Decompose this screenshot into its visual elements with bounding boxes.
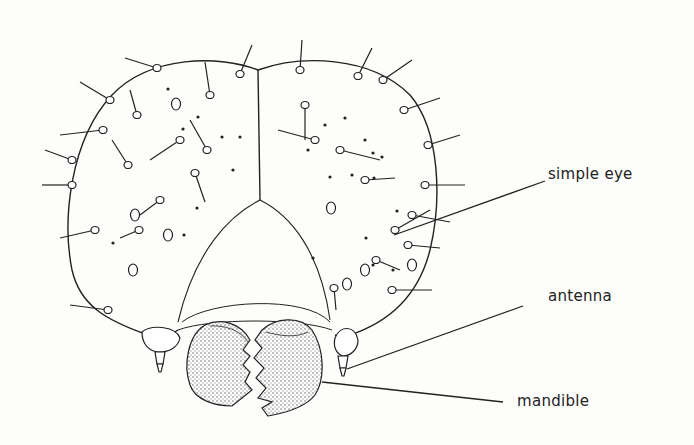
seta-line [383,60,412,80]
seta-socket [106,97,114,104]
head-outline [68,61,437,337]
seta-socket [124,162,132,169]
seta-line [70,305,108,310]
head-capsule-drawing [0,0,694,445]
seta-line [80,82,110,100]
seta-socket [354,73,362,80]
surface-dot [380,155,383,158]
surface-dot [350,173,353,176]
label-mandible: mandible [517,392,589,410]
leader-antenna [347,306,523,369]
seta-socket [311,137,319,144]
diagram-figure: simple eye antenna mandible [0,0,694,445]
surface-dot [323,123,326,126]
seta-socket [372,257,380,264]
seta-socket [421,182,429,189]
surface-dot [391,268,394,271]
surface-dot [343,116,346,119]
surface-dot [231,168,234,171]
seta-line [404,98,440,110]
surface-dot [181,127,184,130]
surface-dot [182,233,185,236]
surface-dot [364,236,367,239]
label-antenna: antenna [548,287,612,305]
seta-socket [388,287,396,294]
surface-dot [195,206,198,209]
surface-dot [328,175,331,178]
surface-dot [372,176,375,179]
seta-line [278,130,315,140]
setae [42,40,465,314]
surface-dot [395,209,398,212]
seta-socket [379,77,387,84]
surface-dot [196,115,199,118]
antenna-right [334,328,358,376]
eye-pit [131,209,140,221]
seta-socket [176,137,184,144]
seta-line [150,140,180,160]
seta-line [340,150,380,160]
label-simple-eye: simple eye [548,165,633,183]
seta-socket [191,170,199,177]
eye-pit [408,259,417,271]
seta-socket [301,102,309,109]
surface-dot [111,241,114,244]
leader-mandible [322,382,503,402]
seta-socket [99,127,107,134]
surface-dot [311,256,314,259]
seta-socket [330,285,338,292]
seta-line [358,48,372,76]
seta-socket [361,177,369,184]
eye-pit [172,98,181,110]
eye-pit [343,278,352,290]
seta-socket [206,92,214,99]
seta-socket [404,242,412,249]
leader-lines [322,181,545,402]
seta-socket [68,157,76,164]
surface-dot [238,135,241,138]
seta-line [195,173,205,202]
leader-simple-eye [394,181,545,235]
seta-socket [236,71,244,78]
seta-socket [135,227,143,234]
seta-line [125,58,157,68]
seta-socket [336,147,344,154]
seta-line [60,130,103,135]
surface-dot [166,87,169,90]
eye-pit [327,202,336,214]
seta-line [205,62,210,95]
surface-dot [371,263,374,266]
seta-line [240,45,252,74]
antenna-left [142,327,180,372]
eye-pit [164,229,173,241]
seta-socket [104,307,112,314]
surface-dot [363,138,366,141]
seta-line [190,120,207,150]
seta-socket [153,65,161,72]
seta-socket [391,227,399,234]
seta-socket [133,112,141,119]
seta-socket [400,107,408,114]
seta-socket [203,147,211,154]
surface-dot [371,151,374,154]
seta-line [408,245,440,248]
seta-socket [91,227,99,234]
surface-dot [220,135,223,138]
eye-pit [129,264,138,276]
eye-pit [361,264,370,276]
seta-socket [296,67,304,74]
seta-socket [156,197,164,204]
seta-line [112,140,128,165]
seta-line [60,230,95,238]
surface-dot [306,148,309,151]
seta-socket [424,142,432,149]
seta-line [428,135,460,145]
mandibles [187,320,322,416]
seta-line [412,215,450,222]
seta-line [300,40,302,70]
seta-socket [68,182,76,189]
seta-socket [408,212,416,219]
